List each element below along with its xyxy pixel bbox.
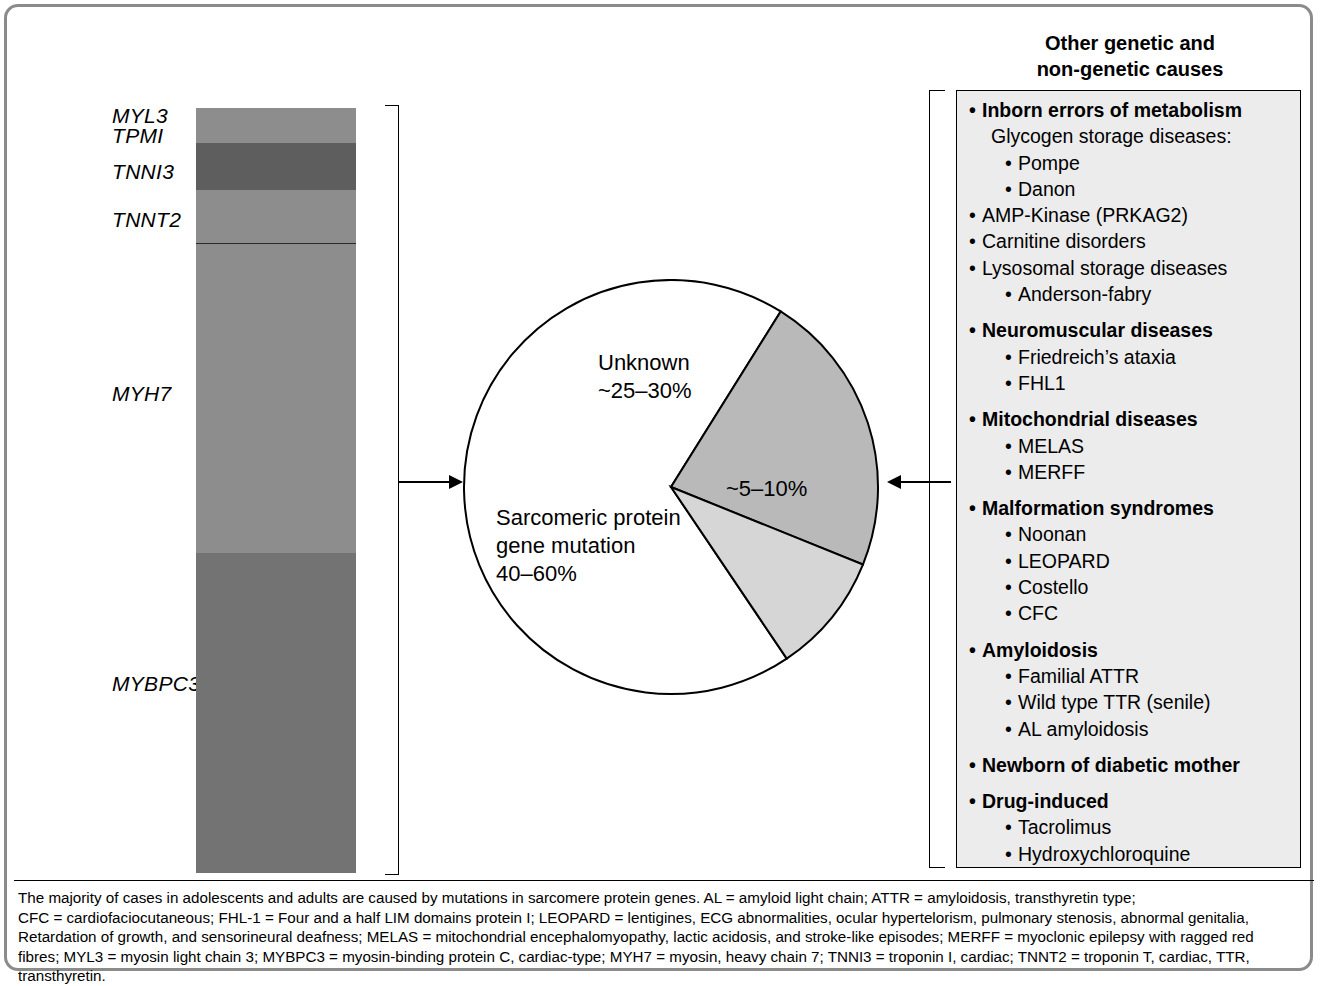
list-spacer [965, 627, 1296, 637]
pie-chart: Unknown~25–30%~5–10%Sarcomeric proteinge… [462, 279, 880, 697]
pie-label-line: Unknown [598, 349, 692, 377]
list-spacer [965, 396, 1296, 406]
cause-item: •AMP-Kinase (PRKAG2) [965, 202, 1296, 228]
bullet-icon: • [1005, 344, 1018, 370]
arrow-bar-to-pie-icon [399, 481, 461, 483]
caption-line: CFC = cardiofaciocutaneous; FHL-1 = Four… [18, 908, 1321, 928]
bullet-icon: • [969, 228, 982, 254]
panel-title-line2: non-genetic causes [960, 56, 1300, 82]
bar-segment-myh7 [196, 243, 356, 553]
pie-label-line: Sarcomeric protein [496, 504, 681, 532]
cause-item: •Wild type TTR (senile) [965, 689, 1296, 715]
bullet-icon: • [969, 317, 982, 343]
cause-label: CFC [1018, 602, 1058, 624]
bullet-icon: • [969, 495, 982, 521]
bullet-icon: • [1005, 459, 1018, 485]
cause-item: •Pompe [965, 150, 1296, 176]
cause-label: LEOPARD [1018, 550, 1110, 572]
cause-label: Mitochondrial diseases [982, 408, 1198, 430]
bar-segment-myl3 [196, 108, 356, 143]
cause-label: Pompe [1018, 152, 1080, 174]
pie-label-line: gene mutation [496, 532, 681, 560]
caption-line: fibres; MYL3 = myosin light chain 3; MYB… [18, 947, 1321, 967]
cause-label: Friedreich’s ataxia [1018, 346, 1176, 368]
cause-item: •Steroids [965, 867, 1296, 868]
bullet-icon: • [1005, 574, 1018, 600]
cause-label: Inborn errors of metabolism [982, 99, 1242, 121]
stacked-bar-chart [196, 108, 356, 873]
bullet-icon: • [1005, 370, 1018, 396]
cause-item: •MELAS [965, 433, 1296, 459]
panel-bracket [929, 90, 945, 868]
bar-label-tnni3: TNNI3 [112, 160, 174, 184]
caption-line: Retardation of growth, and sensorineural… [18, 927, 1321, 947]
bar-segment-tnni3 [196, 143, 356, 190]
cause-label: Danon [1018, 178, 1075, 200]
bullet-icon: • [969, 255, 982, 281]
pie-label-line: ~5–10% [726, 475, 807, 503]
cause-item: •Anderson-fabry [965, 281, 1296, 307]
cause-label: Neuromuscular diseases [982, 319, 1213, 341]
pie-label-line: ~25–30% [598, 377, 692, 405]
list-spacer [965, 485, 1296, 495]
cause-label: Tacrolimus [1018, 816, 1111, 838]
cause-item: •Newborn of diabetic mother [965, 752, 1296, 778]
cause-label: FHL1 [1018, 372, 1066, 394]
bar-label-mybpc3: MYBPC3 [112, 672, 200, 696]
cause-item: •Amyloidosis [965, 637, 1296, 663]
cause-item: •Drug-induced [965, 788, 1296, 814]
cause-label: MELAS [1018, 435, 1084, 457]
bar-segment-mybpc3 [196, 553, 356, 873]
other-causes-list: •Inborn errors of metabolismGlycogen sto… [956, 90, 1301, 868]
pie-label-1: ~5–10% [726, 475, 807, 503]
cause-label: Costello [1018, 576, 1088, 598]
bar-label-tpmi: TPMI [112, 124, 163, 148]
bullet-icon: • [969, 752, 982, 778]
cause-label: Wild type TTR (senile) [1018, 691, 1211, 713]
bullet-icon: • [1005, 281, 1018, 307]
cause-label: AMP-Kinase (PRKAG2) [982, 204, 1188, 226]
caption-divider [14, 880, 1314, 881]
pie-label-line: 40–60% [496, 560, 681, 588]
list-spacer [965, 307, 1296, 317]
cause-item: •Costello [965, 574, 1296, 600]
bullet-icon: • [969, 788, 982, 814]
bar-label-myh7: MYH7 [112, 382, 172, 406]
panel-title-line1: Other genetic and [960, 30, 1300, 56]
cause-label: Lysosomal storage diseases [982, 257, 1227, 279]
cause-label: Drug-induced [982, 790, 1109, 812]
cause-item: •FHL1 [965, 370, 1296, 396]
cause-label: Glycogen storage diseases: [991, 125, 1232, 147]
cause-item: •Noonan [965, 521, 1296, 547]
cause-item: •Friedreich’s ataxia [965, 344, 1296, 370]
cause-item: •MERFF [965, 459, 1296, 485]
list-spacer [965, 742, 1296, 752]
cause-item: •Hydroxychloroquine [965, 841, 1296, 867]
bullet-icon: • [1005, 663, 1018, 689]
cause-label: MERFF [1018, 461, 1085, 483]
cause-item: •Mitochondrial diseases [965, 406, 1296, 432]
pie-label-0: Unknown~25–30% [598, 349, 692, 405]
bullet-icon: • [1005, 867, 1018, 868]
bullet-icon: • [969, 202, 982, 228]
bullet-icon: • [1005, 548, 1018, 574]
caption-line: The majority of cases in adolescents and… [18, 888, 1321, 908]
cause-item: •Malformation syndromes [965, 495, 1296, 521]
cause-item: Glycogen storage diseases: [965, 123, 1296, 149]
bar-label-tnnt2: TNNT2 [112, 208, 181, 232]
cause-label: Hydroxychloroquine [1018, 843, 1190, 865]
bullet-icon: • [1005, 814, 1018, 840]
caption-line: transthyretin. [18, 966, 1321, 986]
cause-label: Carnitine disorders [982, 230, 1146, 252]
cause-item: •LEOPARD [965, 548, 1296, 574]
pie-label-2: Sarcomeric proteingene mutation40–60% [496, 504, 681, 588]
cause-item: •Familial ATTR [965, 663, 1296, 689]
bullet-icon: • [1005, 150, 1018, 176]
bullet-icon: • [1005, 716, 1018, 742]
cause-item: •CFC [965, 600, 1296, 626]
bar-bracket [385, 105, 399, 875]
panel-title: Other genetic and non-genetic causes [960, 30, 1300, 82]
cause-label: Amyloidosis [982, 639, 1098, 661]
pie-svg [462, 279, 880, 697]
